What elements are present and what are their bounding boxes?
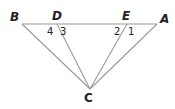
segment-EC bbox=[90, 24, 127, 89]
label-point-A: A bbox=[159, 12, 169, 26]
angle-label-3: 3 bbox=[60, 26, 66, 37]
angle-label-2: 2 bbox=[114, 26, 120, 37]
angle-label-4: 4 bbox=[47, 26, 53, 37]
triangle-diagram: B D E A C 4 3 2 1 bbox=[0, 0, 175, 109]
segment-AC bbox=[90, 24, 157, 89]
label-point-B: B bbox=[10, 10, 19, 24]
segment-BC bbox=[22, 24, 90, 89]
angle-label-1: 1 bbox=[128, 26, 134, 37]
label-point-D: D bbox=[52, 9, 62, 23]
label-point-C: C bbox=[84, 91, 93, 105]
label-point-E: E bbox=[122, 9, 131, 23]
